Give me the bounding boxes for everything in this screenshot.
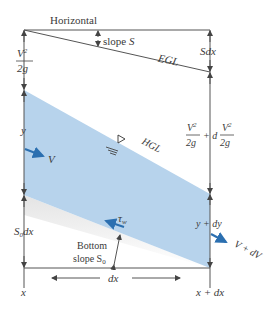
svg-text:2g: 2g bbox=[17, 62, 29, 74]
svg-text:2g: 2g bbox=[220, 137, 230, 148]
bottom-label: Bottom bbox=[77, 240, 107, 251]
x-dx-label: x + dx bbox=[195, 286, 224, 298]
svg-text:2g: 2g bbox=[186, 137, 196, 148]
channel-flow-diagram: Horizontal slope S EGL Sdx V2 2g V2 2g +… bbox=[0, 0, 276, 310]
svg-text:V2: V2 bbox=[17, 47, 28, 59]
bottom-slope-label: slope S0 bbox=[73, 253, 106, 266]
s0dx-label: S0dx bbox=[14, 225, 34, 239]
velocity-v-dv-label: V + dV bbox=[233, 238, 265, 262]
svg-text:V2: V2 bbox=[187, 121, 197, 133]
depth-y-dy-label: y + dy bbox=[195, 218, 222, 229]
horizontal-label: Horizontal bbox=[50, 14, 97, 26]
svg-text:V2: V2 bbox=[222, 121, 232, 133]
svg-text:+ d: + d bbox=[203, 130, 218, 141]
x-label: x bbox=[20, 286, 26, 298]
dx-label: dx bbox=[108, 272, 119, 284]
slope-s-label: slope S bbox=[103, 35, 135, 47]
hgl-label: HGL bbox=[139, 135, 163, 155]
sdx-label: Sdx bbox=[200, 45, 216, 57]
depth-y-label: y bbox=[20, 124, 26, 136]
egl-label: EGL bbox=[156, 51, 180, 67]
velocity-arrow-out bbox=[211, 234, 226, 242]
